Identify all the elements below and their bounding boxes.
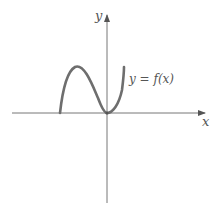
x-axis-label: x [202,114,210,129]
curve-f-of-x [60,67,124,113]
origin-point [105,111,108,114]
graph: y x y = f(x) [0,0,223,213]
curve-label: y = f(x) [128,72,174,86]
y-axis-label: y [94,8,103,23]
